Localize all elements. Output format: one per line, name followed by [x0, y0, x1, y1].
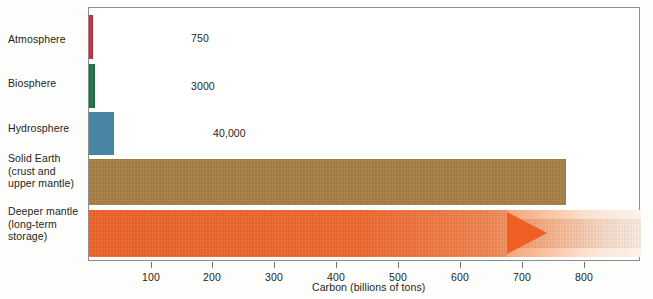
x-axis-tick [584, 262, 585, 268]
category-label-line: Biosphere [8, 77, 94, 90]
category-label-hydrosphere: Hydrosphere [8, 122, 94, 135]
category-label-line: Hydrosphere [8, 122, 94, 135]
x-axis-tick-label: 700 [513, 271, 531, 283]
value-label-hydrosphere: 40,000 [213, 127, 246, 139]
x-axis-tick-label: 600 [451, 271, 469, 283]
x-axis-title: Carbon (billions of tons) [312, 281, 425, 293]
category-label-line: (crust and [8, 165, 94, 178]
category-label-line: storage) [8, 230, 94, 243]
bar-biosphere [89, 64, 95, 108]
x-axis-tick [460, 262, 461, 268]
value-label-biosphere: 3000 [191, 80, 215, 92]
carbon-reservoir-bar-chart: Atmosphere Biosphere Hydrosphere Solid E… [0, 0, 653, 299]
category-label-line: Deeper mantle [8, 205, 94, 218]
category-label-line: (long-term [8, 218, 94, 231]
category-label-atmosphere: Atmosphere [8, 33, 94, 46]
x-axis-tick-label: 200 [203, 271, 221, 283]
x-axis-tick [336, 262, 337, 268]
x-axis-tick [151, 262, 152, 268]
category-label-biosphere: Biosphere [8, 77, 94, 90]
category-label-line: Solid Earth [8, 152, 94, 165]
bar-atmosphere [89, 15, 93, 59]
value-label-atmosphere: 750 [191, 32, 209, 44]
x-axis-tick [522, 262, 523, 268]
x-axis-tick-label: 800 [575, 271, 593, 283]
bar-hydrosphere [89, 112, 114, 155]
x-axis-tick [274, 262, 275, 268]
arrow-head-icon [507, 212, 547, 254]
x-axis-tick-label: 300 [265, 271, 283, 283]
bar-deeper-mantle [89, 210, 641, 257]
bar-solid-earth [89, 159, 566, 205]
category-label-line: upper mantle) [8, 177, 94, 190]
x-axis-tick-label: 100 [142, 271, 160, 283]
category-label-solid-earth: Solid Earth (crust and upper mantle) [8, 152, 94, 190]
category-label-line: Atmosphere [8, 33, 94, 46]
plot-area: 750 3000 40,000 750,000 ??? 100200300400… [88, 7, 640, 261]
x-axis-tick [398, 262, 399, 268]
category-label-deeper-mantle: Deeper mantle (long-term storage) [8, 205, 94, 243]
x-axis-tick [212, 262, 213, 268]
